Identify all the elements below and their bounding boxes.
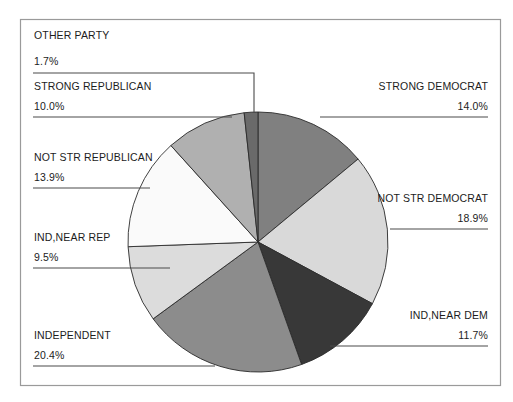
slice-label-independent: INDEPENDENT <box>34 330 111 341</box>
slice-percent-ind-near-dem: 11.7% <box>458 330 488 341</box>
slice-percent-strong-democrat: 14.0% <box>457 101 488 112</box>
pie-chart-figure: OTHER PARTY 1.7% STRONG REPUBLICAN 10.0%… <box>0 0 513 402</box>
slice-label-ind-near-rep: IND,NEAR REP <box>34 232 110 243</box>
slice-label-not-str-republican: NOT STR REPUBLICAN <box>34 152 153 163</box>
slice-label-other-party: OTHER PARTY <box>34 30 109 41</box>
slice-label-not-str-democrat: NOT STR DEMOCRAT <box>377 193 488 204</box>
slice-label-strong-democrat: STRONG DEMOCRAT <box>379 81 488 92</box>
slice-label-ind-near-dem: IND,NEAR DEM <box>410 310 488 321</box>
pie-slices-group <box>128 112 388 372</box>
slice-percent-other-party: 1.7% <box>34 56 59 67</box>
slice-percent-not-str-republican: 13.9% <box>34 172 65 183</box>
slice-percent-strong-republican: 10.0% <box>34 101 65 112</box>
slice-label-strong-republican: STRONG REPUBLICAN <box>34 81 152 92</box>
slice-percent-independent: 20.4% <box>34 350 65 361</box>
slice-percent-not-str-democrat: 18.9% <box>457 213 488 224</box>
slice-percent-ind-near-rep: 9.5% <box>34 252 59 263</box>
